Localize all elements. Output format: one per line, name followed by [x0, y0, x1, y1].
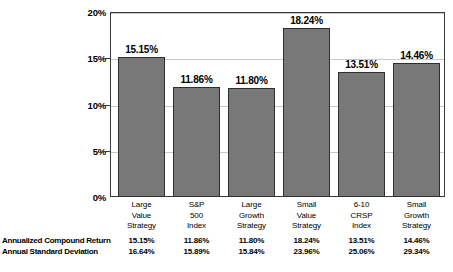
x-category-line: Strategy [275, 221, 338, 232]
x-category-large-growth-strategy: Large Growth Strategy [220, 200, 283, 232]
y-tick-label-0: 0% [46, 192, 106, 203]
x-category-line: Value [110, 211, 173, 222]
x-category-sp-500-index: S&P 500 Index [165, 200, 228, 232]
bar-value-label-sp-500-index: 11.86% [180, 74, 212, 85]
x-category-line: S&P [165, 200, 228, 211]
x-category-line: Strategy [110, 221, 173, 232]
x-category-line: Value [275, 211, 338, 222]
x-category-line: Index [330, 221, 393, 232]
bar-small-growth-strategy[interactable] [393, 63, 440, 197]
y-tick-label-10: 10% [46, 99, 106, 110]
x-category-line: Strategy [385, 221, 448, 232]
y-tick-label-20: 20% [46, 7, 106, 18]
table-row: Annualized Compound Return 15.15% 11.86%… [0, 236, 453, 247]
table-cell: 13.51% [330, 236, 393, 245]
x-category-line: CRSP [330, 211, 393, 222]
y-tick-mark-10 [103, 105, 110, 106]
bar-slot-6-10-crsp-index: 13.51% [338, 12, 385, 197]
bar-value-label-large-growth-strategy: 11.80% [235, 75, 267, 86]
table-cell: 15.15% [110, 236, 173, 245]
bars-layer: 15.15% 11.86% 11.80% 18.24% 13.51% 14.46… [110, 12, 445, 197]
table-row: Annual Standard Deviation 16.64% 15.89% … [0, 247, 453, 258]
bar-small-value-strategy[interactable] [283, 28, 330, 197]
table-row-label-annualized-compound-return: Annualized Compound Return [2, 236, 108, 245]
bar-slot-sp-500-index: 11.86% [173, 12, 220, 197]
table-cell: 11.86% [165, 236, 228, 245]
x-category-line: Growth [385, 211, 448, 222]
data-table: Annualized Compound Return 15.15% 11.86%… [0, 236, 453, 262]
table-cell: 18.24% [275, 236, 338, 245]
bar-slot-large-value-strategy: 15.15% [118, 12, 165, 197]
bar-slot-small-growth-strategy: 14.46% [393, 12, 440, 197]
x-category-6-10-crsp-index: 6-10 CRSP Index [330, 200, 393, 232]
x-category-line: Small [275, 200, 338, 211]
y-tick-label-5: 5% [46, 145, 106, 156]
bar-value-label-6-10-crsp-index: 13.51% [345, 59, 378, 70]
table-cell: 15.89% [165, 247, 228, 256]
bar-6-10-crsp-index[interactable] [338, 72, 385, 197]
x-axis-categories: Large Value Strategy S&P 500 Index Large… [110, 200, 445, 234]
table-row-label-annual-standard-deviation: Annual Standard Deviation [2, 247, 108, 256]
x-category-line: Strategy [220, 221, 283, 232]
x-category-small-growth-strategy: Small Growth Strategy [385, 200, 448, 232]
table-cell: 11.80% [220, 236, 283, 245]
table-cell: 23.96% [275, 247, 338, 256]
x-category-line: 500 [165, 211, 228, 222]
bar-value-label-small-growth-strategy: 14.46% [400, 50, 433, 61]
x-category-line: Index [165, 221, 228, 232]
x-category-line: 6-10 [330, 200, 393, 211]
bar-value-label-small-value-strategy: 18.24% [290, 15, 323, 26]
x-category-small-value-strategy: Small Value Strategy [275, 200, 338, 232]
bar-value-label-large-value-strategy: 15.15% [125, 44, 158, 55]
y-tick-mark-5 [103, 151, 110, 152]
table-cell: 29.34% [385, 247, 448, 256]
table-cell: 16.64% [110, 247, 173, 256]
bar-slot-small-value-strategy: 18.24% [283, 12, 330, 197]
x-category-line: Large [220, 200, 283, 211]
x-category-line: Growth [220, 211, 283, 222]
bar-slot-large-growth-strategy: 11.80% [228, 12, 275, 197]
x-category-line: Small [385, 200, 448, 211]
bar-large-value-strategy[interactable] [118, 57, 165, 197]
bar-sp-500-index[interactable] [173, 87, 220, 197]
table-cell: 14.46% [385, 236, 448, 245]
table-cell: 25.06% [330, 247, 393, 256]
y-tick-label-15: 15% [46, 53, 106, 64]
bar-large-growth-strategy[interactable] [228, 88, 275, 197]
bar-chart-figure: 20% 15% 10% 5% 0% 15.15% 11.86% 11.80% 1… [0, 0, 453, 272]
x-category-line: Large [110, 200, 173, 211]
x-category-large-value-strategy: Large Value Strategy [110, 200, 173, 232]
table-cell: 15.84% [220, 247, 283, 256]
y-tick-mark-15 [103, 58, 110, 59]
